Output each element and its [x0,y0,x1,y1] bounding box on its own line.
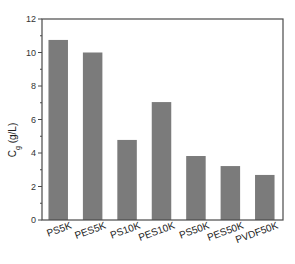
bar-chart: 024681012 PS5KPES5KPS10KPES10KPS50KPES50… [0,0,295,264]
bar-ps10k [117,140,137,220]
bar-pvdf50k [255,175,274,220]
bar-pes5k [83,53,103,221]
bar-pes10k [152,102,172,220]
y-tick-label: 0 [31,215,36,225]
x-category-label: PES5K [73,219,107,240]
bar-ps5k [48,40,68,220]
bar-pes50k [221,166,241,220]
x-category-label: PS5K [45,219,73,238]
y-tick-label: 6 [31,115,36,125]
y-tick-label: 8 [31,81,36,91]
x-category-label: PES10K [137,219,177,242]
y-axis-title-unit: (g/L) [7,123,18,146]
x-category-label: PS50K [178,219,211,240]
bar-ps50k [186,156,206,220]
y-tick-label: 4 [31,148,36,158]
y-axis: 024681012 [26,14,42,225]
bars-group [48,40,274,220]
x-axis: PS5KPES5KPS10KPES10KPS50KPES50KPVDF50K [45,219,280,245]
y-axis-title-main: C [7,150,18,157]
y-axis-title: Cg (g/L) [7,123,22,157]
y-tick-label: 12 [26,14,36,24]
x-category-label: PS10K [109,219,142,240]
y-tick-label: 10 [26,48,36,58]
y-tick-label: 2 [31,182,36,192]
